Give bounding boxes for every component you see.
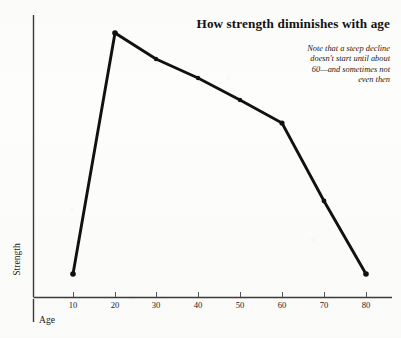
- x-axis-ticks: [74, 292, 367, 297]
- x-tick-label-10: 10: [69, 300, 78, 310]
- x-axis-title: Age: [39, 314, 55, 325]
- data-point-age-10: [70, 271, 76, 277]
- data-point-age-50: [238, 98, 242, 102]
- x-tick-label-30: 30: [152, 300, 161, 310]
- x-tick-label-40: 40: [194, 300, 203, 310]
- data-point-age-30: [154, 57, 158, 61]
- data-point-age-70: [322, 199, 327, 204]
- chart-title: How strength diminishes with age: [197, 16, 390, 32]
- note-line-2: doesn't start until about: [252, 54, 390, 64]
- note-line-3: 60—and sometimes not: [252, 65, 390, 75]
- data-point-age-20: [112, 30, 118, 36]
- chart-figure: 10 20 30 40 50 60 70 80 Age Strength How…: [0, 0, 401, 338]
- x-tick-label-50: 50: [236, 300, 245, 310]
- data-point-age-80: [363, 271, 369, 277]
- x-tick-label-20: 20: [111, 300, 120, 310]
- x-tick-label-80: 80: [362, 300, 371, 310]
- y-axis-title: Strength: [11, 232, 22, 288]
- note-line-1: Note that a steep decline: [252, 44, 390, 54]
- note-line-4: even then: [252, 75, 390, 85]
- x-tick-label-60: 60: [278, 300, 287, 310]
- x-tick-label-70: 70: [320, 300, 329, 310]
- data-point-age-40: [196, 76, 200, 80]
- chart-annotation-note: Note that a steep decline doesn't start …: [252, 44, 390, 86]
- data-point-age-60: [279, 120, 284, 125]
